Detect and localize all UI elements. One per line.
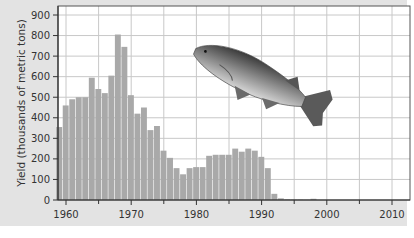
- bar-1973: [148, 130, 154, 200]
- y-tick-label: 400: [31, 112, 50, 123]
- bar-1980: [193, 167, 199, 200]
- bar-1961: [69, 99, 75, 200]
- bar-1987: [239, 152, 245, 200]
- x-tick-label: 1960: [53, 209, 78, 220]
- bar-1969: [121, 47, 127, 200]
- bar-1977: [174, 168, 180, 200]
- y-tick-label: 0: [44, 195, 50, 206]
- y-tick-label: 600: [31, 71, 50, 82]
- bar-1989: [252, 151, 258, 200]
- bar-1979: [187, 168, 193, 200]
- bar-1967: [108, 76, 114, 200]
- bar-chart: 0100200300400500600700800900196019701980…: [0, 0, 414, 238]
- bar-1992: [271, 194, 277, 200]
- bar-1970: [128, 95, 134, 200]
- x-tick-label: 1990: [249, 209, 274, 220]
- y-tick-label: 300: [31, 133, 50, 144]
- bar-1982: [206, 156, 212, 200]
- bar-1960: [63, 105, 69, 200]
- x-tick-label: 1980: [184, 209, 209, 220]
- bar-1972: [141, 108, 147, 201]
- bar-1981: [200, 167, 206, 200]
- y-axis-title: Yield (thousands of metric tons): [15, 19, 27, 188]
- bar-1966: [102, 93, 108, 200]
- bar-1990: [258, 157, 264, 200]
- bar-1968: [115, 35, 121, 200]
- bar-1964: [89, 78, 95, 200]
- bar-1988: [245, 149, 251, 200]
- bar-1976: [167, 158, 173, 200]
- y-tick-label: 500: [31, 92, 50, 103]
- bar-1963: [82, 97, 88, 200]
- bar-1962: [76, 97, 82, 200]
- y-tick-label: 200: [31, 153, 50, 164]
- y-tick-label: 700: [31, 51, 50, 62]
- y-tick-label: 900: [31, 10, 50, 21]
- bar-1984: [219, 155, 225, 200]
- bar-1978: [180, 174, 186, 200]
- x-tick-label: 2000: [314, 209, 339, 220]
- y-tick-label: 800: [31, 30, 50, 41]
- bar-1974: [154, 126, 160, 200]
- bar-1975: [161, 151, 167, 200]
- bar-1986: [232, 149, 238, 200]
- x-tick-label: 2010: [379, 209, 404, 220]
- bar-1965: [95, 89, 101, 200]
- x-tick-label: 1970: [118, 209, 143, 220]
- bar-1991: [265, 168, 271, 200]
- y-tick-label: 100: [31, 174, 50, 185]
- bar-1983: [213, 155, 219, 200]
- bar-1971: [134, 114, 140, 200]
- bar-1985: [226, 155, 232, 200]
